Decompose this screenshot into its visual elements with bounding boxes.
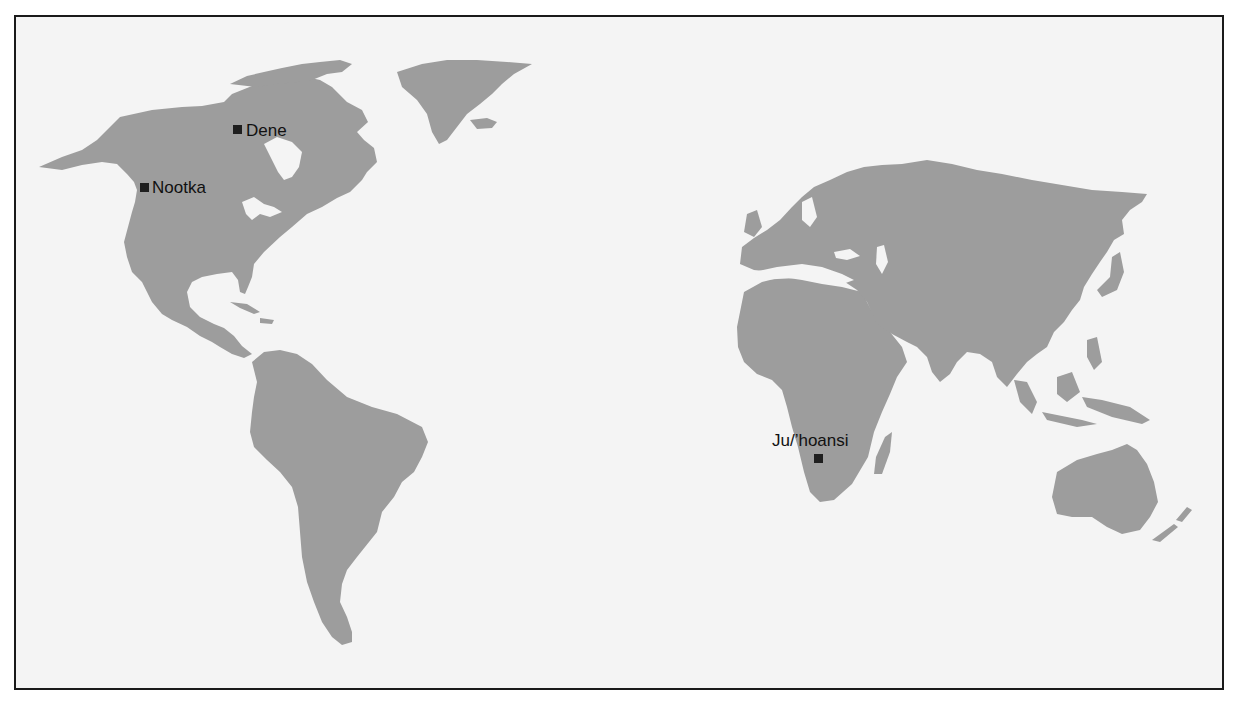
new-zealand	[1152, 507, 1192, 542]
caribbean-islands	[230, 302, 274, 324]
location-marker-nootka[interactable]	[140, 183, 149, 192]
location-label-nootka: Nootka	[152, 179, 206, 196]
madagascar	[874, 432, 892, 474]
location-label-juhoansi: Ju/’hoansi	[772, 432, 849, 449]
continent-australia	[1052, 444, 1158, 534]
continent-north-america	[39, 76, 377, 358]
map-frame: Dene Nootka Ju/’hoansi	[14, 15, 1224, 690]
continent-south-america	[250, 350, 428, 645]
location-marker-dene[interactable]	[233, 125, 242, 134]
location-marker-juhoansi[interactable]	[814, 454, 823, 463]
location-label-dene: Dene	[246, 122, 287, 139]
world-map	[16, 17, 1222, 688]
british-isles	[744, 210, 762, 237]
greenland	[397, 60, 532, 144]
iceland	[470, 118, 497, 129]
